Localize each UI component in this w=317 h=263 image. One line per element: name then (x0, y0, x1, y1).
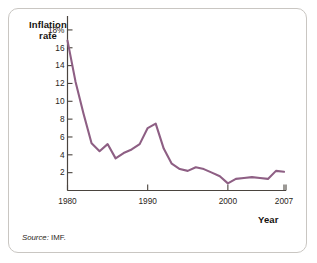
source-note-label: Source: (22, 233, 49, 242)
series-line-0 (68, 41, 285, 184)
axis-lines (68, 16, 287, 191)
source-note: Source: IMF. (22, 233, 66, 242)
source-note-value: IMF. (51, 233, 66, 242)
inflation-rate-figure: Inflation rate Year 18% 16 14 12 10 8 6 … (0, 0, 317, 263)
data-series-group (68, 41, 285, 184)
x-axis-ticks (68, 185, 287, 191)
plot-area (0, 0, 317, 263)
